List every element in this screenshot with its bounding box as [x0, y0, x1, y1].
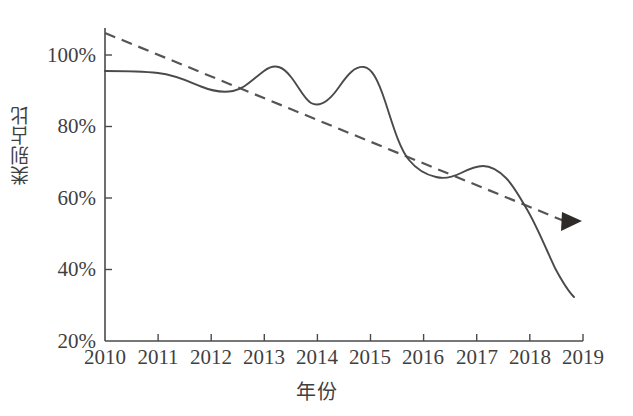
line-chart: 100% 80% 60% 40% 20% 2010 2011 2012 2013… — [0, 0, 633, 416]
y-tick-label-100: 100% — [28, 43, 96, 68]
x-tick-marks — [158, 334, 583, 341]
x-tick-label-2012: 2012 — [190, 345, 232, 370]
x-tick-label-2015: 2015 — [349, 345, 391, 370]
y-tick-label-40: 40% — [28, 257, 96, 282]
data-curve — [105, 67, 574, 297]
trend-line — [105, 33, 569, 223]
x-tick-label-2011: 2011 — [137, 345, 178, 370]
trend-arrowhead-icon — [561, 212, 582, 231]
y-tick-marks — [105, 55, 112, 270]
x-tick-label-2019: 2019 — [562, 345, 604, 370]
x-tick-label-2018: 2018 — [509, 345, 551, 370]
x-tick-label-2014: 2014 — [296, 345, 338, 370]
y-tick-label-60: 60% — [28, 186, 96, 211]
x-axis-title: 年份 — [0, 376, 633, 405]
y-axis-title: 类别占比 — [10, 105, 42, 185]
x-tick-label-2010: 2010 — [84, 345, 126, 370]
x-tick-label-2016: 2016 — [402, 345, 444, 370]
x-tick-label-2017: 2017 — [456, 345, 498, 370]
x-tick-label-2013: 2013 — [243, 345, 285, 370]
